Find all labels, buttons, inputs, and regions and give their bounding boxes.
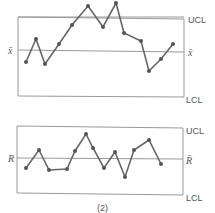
xbar-left-label: x̄ <box>7 45 13 56</box>
r-series-line <box>26 134 161 177</box>
r-left-label: R <box>7 153 14 164</box>
control-charts: x̄ x̄ UCL LCL R R̄ UCL LCL (2) <box>0 0 215 213</box>
r-data-points <box>24 132 163 179</box>
r-lcl-label: LCL <box>186 193 203 203</box>
r-ucl-label: UCL <box>186 126 204 136</box>
r-chart: R R̄ UCL LCL <box>7 126 204 203</box>
r-center-label: R̄ <box>185 155 192 166</box>
xbar-center-label: x̄ <box>187 47 193 58</box>
xbar-series-line <box>26 3 173 71</box>
r-ucl-line <box>17 126 183 128</box>
r-lcl-line <box>17 193 183 195</box>
figure-caption: (2) <box>97 203 108 213</box>
xbar-lcl-label: LCL <box>186 95 203 105</box>
xbar-center-line <box>18 50 184 52</box>
xbar-ucl-label: UCL <box>188 15 206 25</box>
xbar-chart: x̄ x̄ UCL LCL <box>7 1 206 105</box>
